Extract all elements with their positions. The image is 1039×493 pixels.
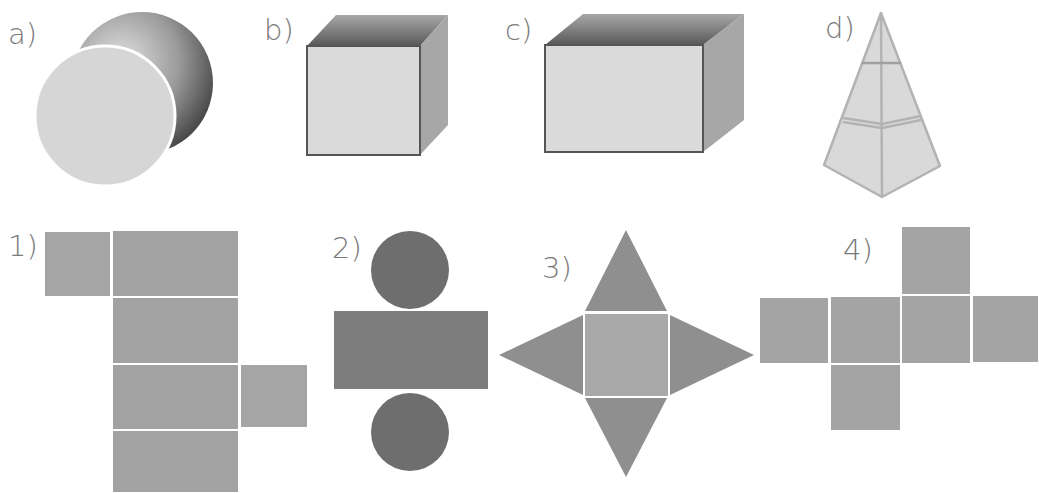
shapes-canvas	[0, 0, 1039, 493]
pyramid-solid	[824, 13, 940, 197]
cube-solid	[307, 15, 448, 155]
pyramid-net	[499, 230, 754, 477]
rectangular-prism-solid	[545, 14, 744, 152]
cube-net	[759, 226, 1039, 431]
prism-net	[44, 230, 308, 493]
cylinder-net	[334, 231, 488, 471]
cylinder-solid	[35, 12, 213, 186]
